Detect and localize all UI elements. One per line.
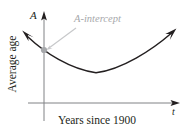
x-axis-title: Years since 1900 [58,114,136,126]
intercept-marker-dot [41,47,47,53]
intercept-leader-line [49,28,76,48]
average-age-curve [28,34,172,73]
intercept-annotation-label: A-intercept [74,13,121,24]
x-axis-variable-label: t [172,106,175,117]
average-age-figure: A t Average age Years since 1900 A-inter… [0,0,187,137]
y-axis-title: Average age [6,31,18,97]
y-axis-variable-label: A [30,9,37,21]
